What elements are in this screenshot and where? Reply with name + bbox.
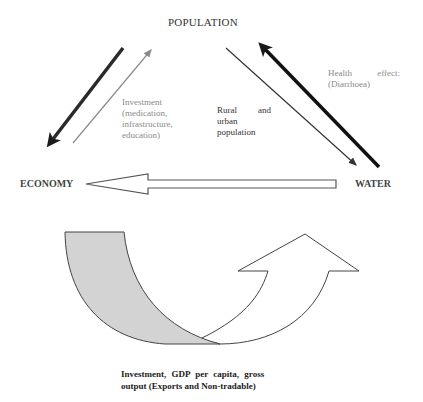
rural-urban-line-3: population (217, 127, 271, 138)
investment-line-1: Investment (122, 97, 173, 108)
effects-word: effect: (377, 68, 400, 79)
rural-word: Rural (217, 105, 237, 116)
investment-line-2: (medication, (122, 108, 173, 119)
node-economy: ECONOMY (20, 179, 73, 189)
investment-line-3: infrastructure, (122, 119, 173, 130)
health-word: Health (328, 68, 352, 79)
curved-arrow-investment-gdp (65, 232, 359, 344)
arrow-health-water-to-population (262, 46, 379, 167)
health-effects-line-2: (Diarrhoea) (328, 79, 400, 90)
node-population: POPULATION (168, 17, 238, 28)
rural-urban-line-1: Rural and (217, 105, 271, 116)
investment-label: Investment (medication, infrastructure, … (122, 97, 173, 141)
bottom-caption-line-2: output (Exports and Non-tradable) (121, 380, 278, 392)
node-water: WATER (355, 179, 391, 189)
arrow-population-to-economy (50, 48, 123, 143)
bottom-caption: Investment, GDP per capita, gross output… (121, 368, 278, 392)
bottom-caption-line-1: Investment, GDP per capita, gross (121, 368, 278, 380)
water-economy-population-diagram: POPULATION ECONOMY WATER Investment (med… (0, 0, 423, 402)
diagram-shapes (0, 0, 423, 402)
investment-line-4: education) (122, 130, 173, 141)
rural-urban-label: Rural and urban population (217, 105, 271, 138)
health-effects-line-1: Health effect: (328, 68, 400, 79)
block-arrow-water-to-economy (86, 174, 336, 194)
health-effects-label: Health effect: (Diarrhoea) (328, 68, 400, 90)
rural-urban-line-2: urban (217, 116, 271, 127)
and-word: and (258, 105, 271, 116)
